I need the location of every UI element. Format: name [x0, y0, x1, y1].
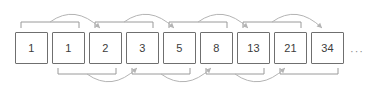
pair-bracket: [58, 68, 116, 74]
pair-bracket: [132, 68, 190, 74]
sum-arrow: [87, 68, 137, 82]
pair-bracket: [243, 22, 301, 28]
sequence-box: 5: [163, 32, 196, 64]
pair-bracket: [95, 22, 153, 28]
pair-bracket: [280, 68, 338, 74]
sequence-ellipsis: ···: [350, 46, 364, 57]
fibonacci-diagram: 112358132134 ···: [0, 0, 368, 96]
sum-arrow: [235, 68, 285, 82]
sequence-box: 1: [52, 32, 85, 64]
sequence-box: 3: [126, 32, 159, 64]
sum-arrow: [124, 14, 174, 28]
pair-bracket: [206, 68, 264, 74]
sequence-box: 21: [274, 32, 307, 64]
sum-arrow: [50, 14, 100, 28]
sequence-box: 2: [89, 32, 122, 64]
sum-arrow: [272, 14, 322, 28]
sum-arrow: [161, 68, 211, 82]
sequence-box: 34: [311, 32, 344, 64]
sum-arrow: [198, 14, 248, 28]
sequence-box: 13: [237, 32, 270, 64]
pair-bracket: [21, 22, 79, 28]
sequence-box: 1: [15, 32, 48, 64]
pair-bracket: [169, 22, 227, 28]
sequence-box: 8: [200, 32, 233, 64]
